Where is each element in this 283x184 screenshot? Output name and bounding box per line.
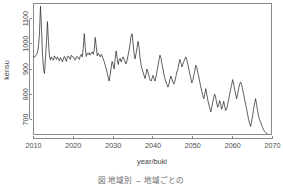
x-tick-label: 2040 [145, 141, 161, 150]
x-axis-title: year/buki [137, 157, 167, 166]
data-series-group [34, 6, 268, 134]
figure-container: 70080090010001100 2010202020302040205020… [0, 0, 283, 184]
y-tick-label: 800 [21, 88, 30, 100]
y-tick-label: 700 [21, 113, 30, 125]
y-axis: 70080090010001100 [21, 11, 32, 126]
y-axis-tick-labels: 70080090010001100 [21, 11, 30, 126]
x-axis-tick-labels: 2010202020302040205020602070 [26, 141, 281, 150]
figure-caption: 図 地域別 → 地域ごとの [98, 175, 184, 184]
series-line-kensu [34, 6, 268, 134]
y-axis-title: kensu [2, 60, 11, 80]
y-tick-label: 1000 [21, 36, 30, 52]
x-tick-label: 2010 [26, 141, 42, 150]
x-axis: 2010202020302040205020602070 [26, 136, 281, 150]
x-tick-label: 2060 [225, 141, 241, 150]
x-tick-label: 2030 [105, 141, 121, 150]
x-tick-label: 2070 [264, 141, 280, 150]
x-tick-label: 2050 [185, 141, 201, 150]
y-tick-label: 1100 [21, 11, 30, 26]
line-chart: 70080090010001100 2010202020302040205020… [0, 0, 283, 184]
y-tick-label: 900 [21, 63, 30, 75]
x-tick-label: 2020 [65, 141, 81, 150]
plot-panel-border [34, 4, 272, 135]
